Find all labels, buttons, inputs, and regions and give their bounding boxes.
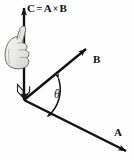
label-b-operand: B <box>59 2 67 14</box>
label-c-equals-a-cross-b: C=A×B <box>27 3 67 15</box>
label-angle-theta: θ <box>54 88 60 100</box>
label-a-operand: A <box>44 2 52 14</box>
label-c: C <box>27 2 35 14</box>
label-equals: = <box>35 2 43 14</box>
right-hand-rule-figure: C=A×B B A θ <box>0 0 134 160</box>
vector-a-arrow <box>24 100 126 151</box>
label-vector-b: B <box>93 54 101 65</box>
right-hand-illustration <box>5 26 29 69</box>
label-vector-a: A <box>114 127 122 138</box>
